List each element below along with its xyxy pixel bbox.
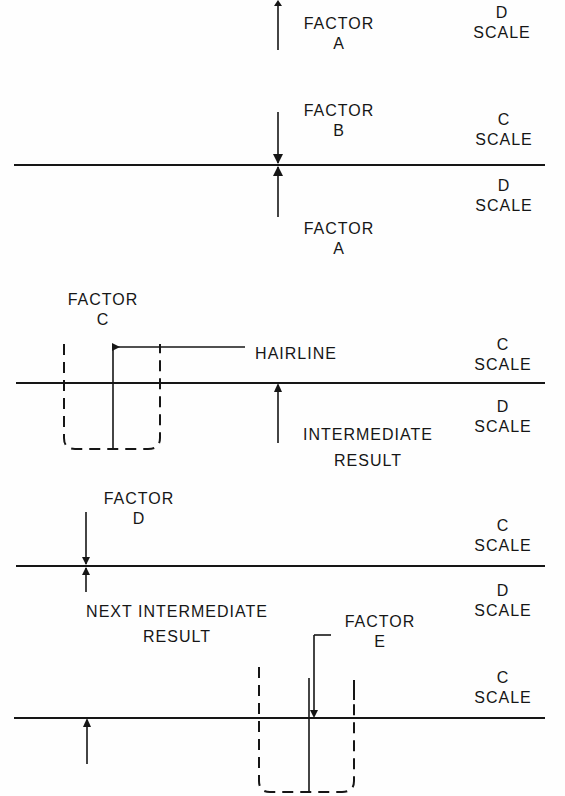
step3-c-scale-label: C SCALE (474, 335, 531, 375)
step3-hairline-label: HAIRLINE (255, 344, 337, 364)
scale-letter: D (474, 581, 531, 601)
step2-factor-b-label: FACTOR B (304, 101, 375, 141)
scale-letter: C (474, 335, 531, 355)
step3-d-scale-label: D SCALE (474, 397, 531, 437)
scale-letter: C (475, 110, 532, 130)
scale-word: SCALE (474, 417, 531, 437)
factor-letter: A (304, 34, 375, 54)
result-word-1: INTERMEDIATE (303, 422, 433, 448)
scale-letter: D (475, 176, 532, 196)
step4-d-scale-label: D SCALE (474, 581, 531, 621)
scale-word: SCALE (474, 688, 531, 708)
step4-c-scale-label: C SCALE (474, 516, 531, 556)
result-word-1: NEXT INTERMEDIATE (86, 599, 268, 624)
factor-letter: C (68, 310, 139, 330)
scale-letter: D (473, 3, 530, 23)
factor-word: FACTOR (68, 290, 139, 310)
step3-intermediate-result-label: INTERMEDIATE RESULT (303, 422, 433, 474)
step4-scale-line (16, 512, 545, 592)
step4-next-intermediate-result-label: NEXT INTERMEDIATE RESULT (86, 599, 268, 649)
step5-scale-line (14, 635, 545, 792)
scale-word: SCALE (475, 196, 532, 216)
scale-word: SCALE (474, 536, 531, 556)
step1-d-scale-label: D SCALE (473, 3, 530, 43)
result-word-2: RESULT (303, 448, 433, 474)
step2-factor-a-label: FACTOR A (304, 219, 375, 259)
step2-c-scale-label: C SCALE (475, 110, 532, 150)
step1-factor-a-label: FACTOR A (304, 14, 375, 54)
factor-word: FACTOR (345, 612, 416, 632)
step1-factor-a-arrow (274, 0, 282, 50)
factor-word: FACTOR (304, 14, 375, 34)
factor-letter: B (304, 121, 375, 141)
factor-letter: E (345, 632, 416, 652)
step5-factor-e-label: FACTOR E (345, 612, 416, 652)
slide-rule-diagram: FACTOR A D SCALE FACTOR B C SCALE D SCAL… (0, 0, 565, 796)
factor-letter: D (104, 509, 175, 529)
scale-letter: C (474, 668, 531, 688)
scale-word: SCALE (474, 601, 531, 621)
factor-word: FACTOR (304, 219, 375, 239)
scale-letter: C (474, 516, 531, 536)
scale-word: SCALE (473, 23, 530, 43)
step4-factor-d-label: FACTOR D (104, 489, 175, 529)
factor-word: FACTOR (104, 489, 175, 509)
hairline-word: HAIRLINE (255, 344, 337, 364)
result-word-2: RESULT (86, 624, 268, 649)
step2-scale-line (14, 112, 545, 217)
factor-letter: A (304, 239, 375, 259)
step5-c-scale-label: C SCALE (474, 668, 531, 708)
step3-factor-c-label: FACTOR C (68, 290, 139, 330)
factor-word: FACTOR (304, 101, 375, 121)
scale-letter: D (474, 397, 531, 417)
scale-word: SCALE (474, 355, 531, 375)
scale-word: SCALE (475, 130, 532, 150)
step2-d-scale-label: D SCALE (475, 176, 532, 216)
